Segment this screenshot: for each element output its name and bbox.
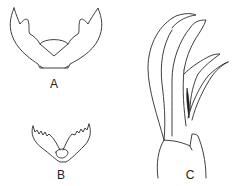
panel-label-c: C: [180, 169, 200, 181]
figure: A B C: [0, 0, 248, 186]
panel-c-drawing: [0, 0, 248, 186]
drawing-c: [148, 14, 228, 178]
panel-label-a: A: [44, 78, 64, 90]
panel-label-b: B: [51, 169, 71, 181]
